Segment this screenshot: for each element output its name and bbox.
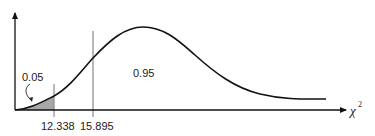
tail-area-label: 0.05 bbox=[22, 71, 43, 83]
pointer-arrow-icon bbox=[26, 84, 31, 100]
main-area-label: 0.95 bbox=[133, 67, 154, 79]
chi-square-chart: 0.05 0.95 12.338 15.895 χ 2 bbox=[0, 0, 375, 136]
critical-value-label-1: 12.338 bbox=[41, 120, 75, 132]
critical-value-label-2: 15.895 bbox=[80, 120, 114, 132]
x-axis-label: χ bbox=[348, 103, 356, 118]
density-curve bbox=[15, 27, 326, 110]
x-axis-label-superscript: 2 bbox=[358, 100, 362, 109]
